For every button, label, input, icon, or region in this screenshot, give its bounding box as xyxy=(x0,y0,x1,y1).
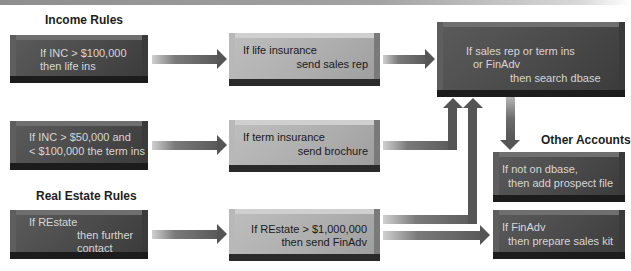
rule-text: then prepare sales kit xyxy=(508,234,613,248)
arrow-head-right-icon xyxy=(425,49,435,69)
connector-line xyxy=(383,141,453,150)
rule-box-real-estate-1m: If REstate > $1,000,000 then send FinAdv xyxy=(229,209,380,261)
arrow-right-icon xyxy=(152,230,217,239)
arrow-right-icon xyxy=(383,55,426,64)
rule-text: then add prospect file xyxy=(508,176,613,190)
rule-text: If INC > $50,000 and xyxy=(29,130,131,144)
arrow-head-down-icon xyxy=(500,140,520,150)
rule-text: contact xyxy=(77,241,112,255)
section-label-real-estate: Real Estate Rules xyxy=(36,189,137,203)
section-label-other-accounts: Other Accounts xyxy=(541,133,631,147)
arrow-head-up-icon xyxy=(443,98,463,108)
rule-text: then life ins xyxy=(40,59,96,73)
rule-text: If sales rep or term ins xyxy=(466,44,575,58)
rule-text: then further xyxy=(77,228,133,242)
rule-box-life-insurance: If life insurance send sales rep xyxy=(229,33,380,86)
rule-box-finadv: If FinAdv then prepare sales kit xyxy=(493,210,625,259)
arrow-right-icon xyxy=(152,141,217,150)
rule-box-search-dbase: If sales rep or term ins or FinAdv then … xyxy=(437,22,625,97)
rule-text: If INC > $100,000 xyxy=(40,46,127,60)
arrow-down-icon xyxy=(506,97,515,141)
connector-line xyxy=(468,108,477,224)
rule-text: send brochure xyxy=(298,144,368,158)
rule-box-income-50k: If INC > $50,000 and < $100,000 the term… xyxy=(10,121,148,170)
arrow-head-right-icon xyxy=(217,135,227,155)
arrow-right-icon xyxy=(383,231,481,240)
rule-text: If term insurance xyxy=(243,130,325,144)
rule-text: If not on dbase, xyxy=(502,162,578,176)
top-banner xyxy=(0,0,631,5)
rule-box-real-estate: If REstate then further contact xyxy=(10,210,148,259)
rule-text: If REstate xyxy=(29,215,77,229)
rule-text: then search dbase xyxy=(510,71,601,85)
arrow-head-up-icon xyxy=(463,98,483,108)
rule-box-income-100k: If INC > $100,000 then life ins xyxy=(10,35,148,83)
rule-box-term-insurance: If term insurance send brochure xyxy=(229,120,380,172)
rule-text: < $100,000 the term ins xyxy=(29,144,145,158)
rule-text: then send FinAdv xyxy=(281,235,367,249)
arrow-head-right-icon xyxy=(217,49,227,69)
rule-text: If life insurance xyxy=(243,43,317,57)
rule-box-not-on-dbase: If not on dbase, then add prospect file xyxy=(493,152,625,202)
rule-text: or FinAdv xyxy=(473,57,520,71)
arrow-head-right-icon xyxy=(217,224,227,244)
rule-text: send sales rep xyxy=(296,57,368,71)
arrow-head-right-icon xyxy=(480,225,490,245)
arrow-right-icon xyxy=(152,55,217,64)
section-label-income: Income Rules xyxy=(45,13,123,27)
connector-line xyxy=(448,108,457,150)
rule-text: If REstate > $1,000,000 xyxy=(251,222,367,236)
rule-text: If FinAdv xyxy=(502,220,545,234)
connector-line xyxy=(383,215,477,224)
